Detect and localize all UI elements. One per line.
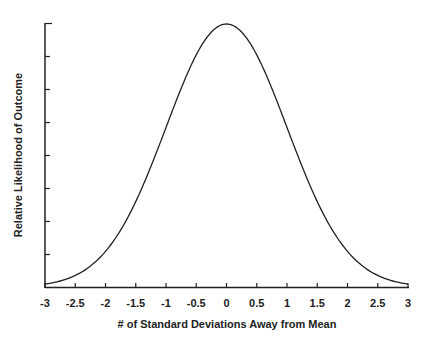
y-axis <box>45 23 52 288</box>
x-tick-label: -2 <box>101 297 111 309</box>
x-tick-label: 1 <box>284 297 290 309</box>
x-tick-label: -3 <box>40 297 50 309</box>
x-tick-label: 2 <box>344 297 350 309</box>
x-axis: -3-2.5-2-1.5-1-0.500.511.522.53 <box>40 283 411 309</box>
x-axis-title: # of Standard Deviations Away from Mean <box>118 318 337 330</box>
x-tick-label: 3 <box>405 297 411 309</box>
bell-curve-line <box>45 24 408 284</box>
x-tick-label: 0 <box>223 297 229 309</box>
y-axis-ticks <box>45 24 52 255</box>
x-tick-label: -2.5 <box>66 297 85 309</box>
normal-distribution-chart: -3-2.5-2-1.5-1-0.500.511.522.53 # of Sta… <box>0 0 426 347</box>
x-tick-label: -1 <box>161 297 171 309</box>
x-tick-label: 1.5 <box>310 297 325 309</box>
x-axis-tick-labels: -3-2.5-2-1.5-1-0.500.511.522.53 <box>40 297 411 309</box>
x-tick-label: -1.5 <box>126 297 145 309</box>
y-axis-title: Relative Likelihood of Outcome <box>12 73 24 237</box>
x-tick-label: -0.5 <box>187 297 206 309</box>
x-tick-label: 2.5 <box>370 297 385 309</box>
x-tick-label: 0.5 <box>249 297 264 309</box>
